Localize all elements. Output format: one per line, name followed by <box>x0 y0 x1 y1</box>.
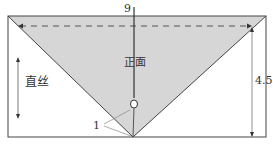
width-label: 9 <box>124 3 131 14</box>
right-height-label: 4.5 <box>255 75 273 86</box>
face-label: 正面 <box>124 57 146 68</box>
grain-arrow-down-icon <box>16 114 20 119</box>
grain-label: 直丝 <box>25 76 49 88</box>
grain-arrow-up-icon <box>16 57 20 62</box>
loop-icon <box>131 100 138 108</box>
dim-arrow-down-icon <box>250 132 254 137</box>
corner-number-label: 1 <box>93 120 100 131</box>
